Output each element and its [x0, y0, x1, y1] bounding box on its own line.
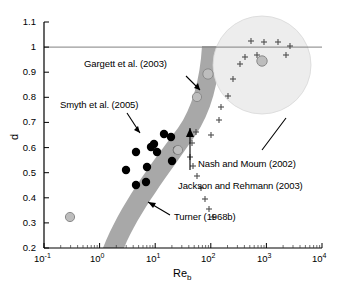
x-tick-exp: 0 — [101, 252, 105, 259]
plus-marker — [202, 196, 208, 202]
turner-arrow-head — [148, 202, 156, 208]
data-point — [257, 56, 267, 66]
plus-marker — [208, 132, 214, 138]
figure-root: 1.1 1 0.9 0.8 0.7 0.6 0.5 0.4 0.3 0.2 10… — [0, 0, 340, 286]
x-tick-label: 100 — [90, 252, 104, 264]
x-tick-base: 10 — [90, 253, 101, 264]
data-point — [168, 157, 176, 165]
plus-marker — [194, 173, 200, 179]
data-point — [143, 163, 151, 171]
x-axis-title: Reb — [173, 267, 192, 282]
x-tick-exp: 1 — [157, 252, 161, 259]
x-tick-exp: 2 — [212, 252, 216, 259]
data-point — [167, 133, 175, 141]
y-axis-ticks — [44, 22, 49, 248]
y-tick-label: 0.3 — [10, 217, 36, 228]
x-tick-label: 101 — [146, 252, 160, 264]
y-tick-label: 0.2 — [10, 242, 36, 253]
x-tick-base: 10 — [146, 253, 157, 264]
x-tick-base: 10 — [257, 253, 268, 264]
x-axis-major-ticks — [44, 243, 322, 248]
annotation-turner: Turner (1968b) — [174, 211, 236, 222]
x-tick-label: 104 — [312, 252, 326, 264]
x-tick-label: 10-1 — [34, 252, 51, 264]
y-tick-label: 0.5 — [10, 167, 36, 178]
y-tick-label: 0.8 — [10, 91, 36, 102]
nash-leader-line — [262, 118, 286, 150]
data-point — [65, 212, 74, 221]
x-tick-exp: 4 — [323, 252, 327, 259]
annotation-smyth: Smyth et al. (2005) — [60, 99, 138, 110]
x-tick-exp: 3 — [268, 252, 272, 259]
x-tick-label: 102 — [201, 252, 215, 264]
x-axis-title-sub: b — [187, 273, 191, 282]
data-point — [142, 178, 150, 186]
annotation-nash: Nash and Moum (2002) — [198, 158, 296, 169]
y-tick-label: 1 — [10, 41, 36, 52]
y-tick-label: 0.6 — [10, 142, 36, 153]
annotation-gargett: Gargett et al. (2003) — [84, 58, 167, 69]
plus-marker — [190, 163, 196, 169]
data-point — [173, 145, 182, 154]
x-axis-title-base: Re — [173, 267, 187, 279]
data-point — [192, 92, 201, 101]
y-tick-label: 0.9 — [10, 66, 36, 77]
x-tick-label: 103 — [257, 252, 271, 264]
plus-marker — [218, 104, 224, 110]
plus-marker — [216, 117, 222, 123]
y-tick-label: 0.4 — [10, 192, 36, 203]
y-tick-label: 0.7 — [10, 116, 36, 127]
x-tick-base: 10 — [34, 253, 45, 264]
smyth-arrow-head — [134, 126, 140, 133]
data-point — [132, 181, 140, 189]
annotation-jackson: Jackson and Rehmann (2003) — [178, 180, 303, 191]
data-point — [122, 166, 130, 174]
x-tick-exp: -1 — [45, 252, 51, 259]
data-point — [150, 140, 158, 148]
x-tick-base: 10 — [312, 253, 323, 264]
x-tick-base: 10 — [201, 253, 212, 264]
data-point — [132, 148, 140, 156]
data-point — [203, 69, 213, 79]
plot-area: 1.1 1 0.9 0.8 0.7 0.6 0.5 0.4 0.3 0.2 10… — [0, 0, 340, 286]
data-point — [153, 148, 161, 156]
chart-canvas — [0, 0, 340, 286]
y-tick-label: 1.1 — [10, 16, 36, 27]
y-axis-title: d — [8, 134, 20, 140]
